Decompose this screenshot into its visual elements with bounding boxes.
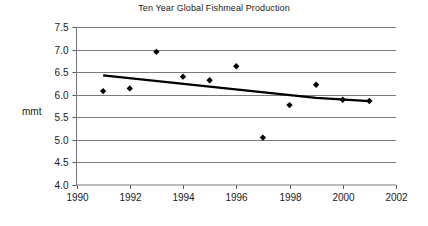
y-tick-label: 4.0 xyxy=(55,180,69,191)
trend-line-series xyxy=(103,75,369,101)
chart-container: Ten Year Global Fishmeal Production mmt … xyxy=(0,0,428,226)
y-tick-label: 5.5 xyxy=(55,112,69,123)
x-tick-label: 1990 xyxy=(66,192,89,203)
y-tick-label: 7.0 xyxy=(55,45,69,56)
y-tick-label: 7.5 xyxy=(55,22,69,33)
data-point xyxy=(153,49,159,55)
x-tick-label: 2002 xyxy=(385,192,408,203)
x-tick-label: 1992 xyxy=(119,192,142,203)
x-tick-label: 2000 xyxy=(332,192,355,203)
data-point xyxy=(260,134,266,140)
axis-ticks xyxy=(73,28,397,190)
y-tick-label: 6.5 xyxy=(55,67,69,78)
x-tick-label: 1996 xyxy=(225,192,248,203)
gridlines xyxy=(77,28,397,163)
data-point-markers xyxy=(100,49,373,141)
data-point xyxy=(180,73,186,79)
plot-area: 4.04.55.05.56.06.57.07.5 199019921994199… xyxy=(0,0,428,226)
x-tick-labels: 1990199219941996199820002002 xyxy=(66,192,408,203)
data-point xyxy=(313,82,319,88)
data-point xyxy=(366,98,372,104)
data-point xyxy=(286,102,292,108)
y-tick-label: 6.0 xyxy=(55,90,69,101)
trend-line xyxy=(103,75,369,101)
data-point xyxy=(100,88,106,94)
x-tick-label: 1998 xyxy=(279,192,302,203)
data-point xyxy=(206,77,212,83)
y-tick-label: 5.0 xyxy=(55,135,69,146)
data-point xyxy=(127,85,133,91)
y-tick-labels: 4.04.55.05.56.06.57.07.5 xyxy=(55,22,69,191)
y-tick-label: 4.5 xyxy=(55,157,69,168)
x-tick-label: 1994 xyxy=(172,192,195,203)
data-point xyxy=(233,63,239,69)
data-point xyxy=(340,96,346,102)
